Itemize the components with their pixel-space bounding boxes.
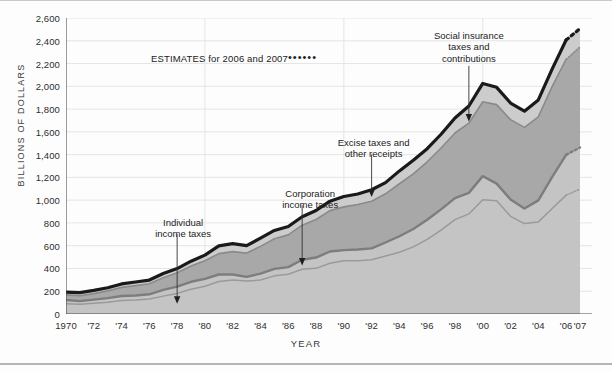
x-tick-label: '04 bbox=[532, 320, 545, 331]
x-tick-label: '98 bbox=[449, 320, 462, 331]
x-axis-tick-labels: 1970'72'74'76'78'80'82'84'86'88'90'92'94… bbox=[66, 320, 594, 336]
y-tick-label: 1,800 bbox=[36, 104, 60, 115]
y-tick-label: 600 bbox=[44, 240, 60, 251]
x-tick-label: '78 bbox=[171, 320, 184, 331]
y-tick-label: 200 bbox=[44, 286, 60, 297]
x-tick-label: '76 bbox=[143, 320, 156, 331]
y-tick-label: 2,600 bbox=[36, 13, 60, 24]
x-tick-label: '02 bbox=[504, 320, 517, 331]
x-tick-label: '07 bbox=[574, 320, 587, 331]
y-tick-label: 400 bbox=[44, 263, 60, 274]
annotation-excise-taxes-and-other-receipts: Excise taxes and other receipts bbox=[322, 137, 426, 160]
y-tick-label: 0 bbox=[55, 309, 60, 320]
x-axis-title: YEAR bbox=[0, 338, 612, 349]
x-tick-label: '94 bbox=[393, 320, 406, 331]
y-axis-tick-labels: 02004006008001,0001,2001,4001,6001,8002,… bbox=[0, 18, 60, 314]
x-tick-label: '84 bbox=[254, 320, 267, 331]
estimates-legend: ESTIMATES for 2006 and 2007•••••• bbox=[151, 51, 317, 64]
x-tick-label: '74 bbox=[115, 320, 128, 331]
x-tick-label: '82 bbox=[226, 320, 239, 331]
estimates-legend-dots: •••••• bbox=[288, 51, 317, 63]
y-tick-label: 1,200 bbox=[36, 172, 60, 183]
x-tick-label: '06 bbox=[560, 320, 573, 331]
x-tick-label: '92 bbox=[365, 320, 378, 331]
top-rule bbox=[0, 0, 612, 1]
x-tick-label: '00 bbox=[476, 320, 489, 331]
annotation-social-insurance-taxes-and-contributions: Social insurance taxes and contributions bbox=[417, 30, 521, 65]
x-tick-label: '72 bbox=[87, 320, 100, 331]
chart-figure: BILLIONS OF DOLLARS 02004006008001,0001,… bbox=[0, 0, 612, 371]
bottom-rule bbox=[0, 363, 612, 365]
annotation-corporation-income-taxes: Corporation income taxes bbox=[258, 188, 362, 211]
annotation-leader-2 bbox=[368, 155, 374, 198]
y-tick-label: 2,200 bbox=[36, 58, 60, 69]
x-tick-label: '86 bbox=[282, 320, 295, 331]
x-tick-label: '90 bbox=[337, 320, 350, 331]
estimates-legend-text: ESTIMATES for 2006 and 2007 bbox=[151, 53, 288, 64]
x-tick-label: 1970 bbox=[55, 320, 77, 331]
x-tick-label: '80 bbox=[199, 320, 212, 331]
annotation-individual-income-taxes: Individual income taxes bbox=[131, 217, 235, 240]
x-tick-label: '96 bbox=[421, 320, 434, 331]
area-bands bbox=[66, 29, 580, 314]
y-tick-label: 2,000 bbox=[36, 81, 60, 92]
x-tick-label: '88 bbox=[310, 320, 323, 331]
y-tick-label: 1,000 bbox=[36, 195, 60, 206]
y-tick-label: 1,400 bbox=[36, 149, 60, 160]
y-tick-label: 800 bbox=[44, 217, 60, 228]
y-tick-label: 2,400 bbox=[36, 35, 60, 46]
y-tick-label: 1,600 bbox=[36, 126, 60, 137]
